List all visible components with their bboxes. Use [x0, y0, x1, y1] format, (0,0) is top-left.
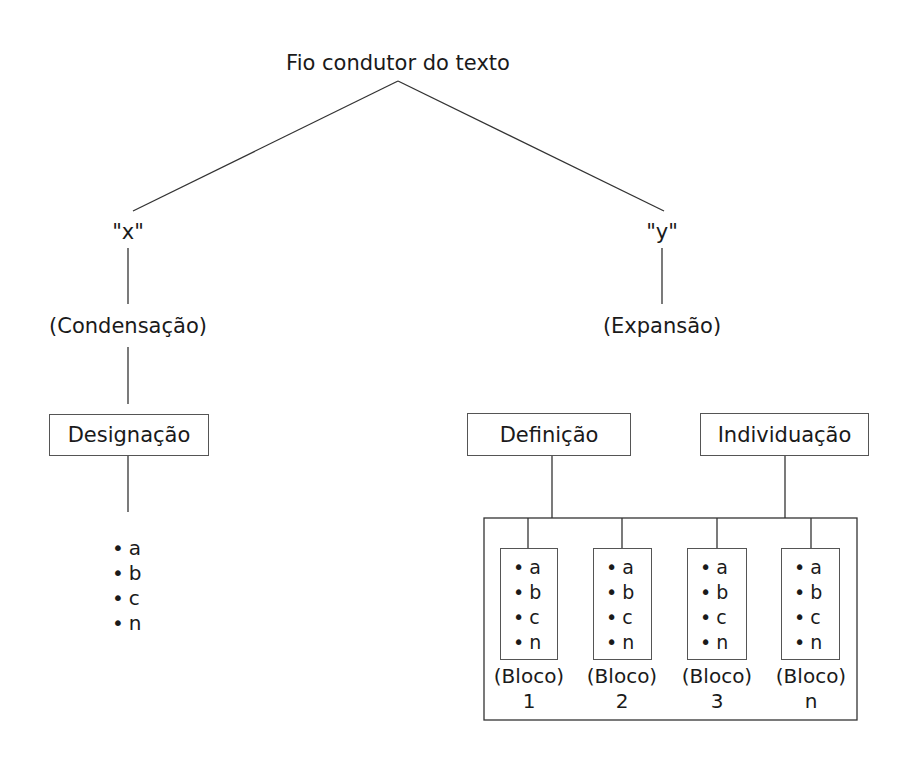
- block-2-caption: (Bloco) 2: [587, 664, 657, 714]
- individuation-box: Individuação: [700, 413, 869, 456]
- caption-text: (Bloco): [776, 664, 846, 689]
- caption-text: (Bloco): [682, 664, 752, 689]
- list-item: a: [112, 536, 142, 561]
- list-item: c: [112, 586, 142, 611]
- caption-text: (Bloco): [587, 664, 657, 689]
- list-item: n: [700, 630, 746, 655]
- block-1: a b c n: [500, 548, 558, 660]
- block-1-caption: (Bloco) 1: [494, 664, 564, 714]
- list-item: n: [794, 630, 839, 655]
- individuation-label: Individuação: [718, 423, 852, 447]
- x-label: "x": [112, 222, 144, 243]
- caption-number: n: [776, 689, 846, 714]
- condensation-label: (Condensação): [49, 316, 207, 337]
- caption-number: 1: [494, 689, 564, 714]
- list-item: b: [794, 580, 839, 605]
- list-item: n: [112, 611, 142, 636]
- list-item: a: [513, 555, 557, 580]
- designation-box: Designação: [49, 414, 209, 456]
- block-n: a b c n: [781, 548, 840, 660]
- list-item: c: [606, 605, 651, 630]
- list-item: c: [700, 605, 746, 630]
- list-item: n: [513, 630, 557, 655]
- y-label: "y": [646, 222, 678, 243]
- list-item: n: [606, 630, 651, 655]
- block-3: a b c n: [687, 548, 747, 660]
- block-n-caption: (Bloco) n: [776, 664, 846, 714]
- caption-number: 2: [587, 689, 657, 714]
- list-item: b: [112, 561, 142, 586]
- list-item: a: [700, 555, 746, 580]
- list-item: c: [513, 605, 557, 630]
- expansion-label: (Expansão): [603, 316, 721, 337]
- designation-list: a b c n: [112, 536, 142, 636]
- list-item: a: [606, 555, 651, 580]
- caption-text: (Bloco): [494, 664, 564, 689]
- list-item: c: [794, 605, 839, 630]
- block-3-caption: (Bloco) 3: [682, 664, 752, 714]
- designation-label: Designação: [68, 423, 191, 447]
- definition-box: Definição: [467, 413, 631, 456]
- list-item: b: [700, 580, 746, 605]
- list-item: b: [513, 580, 557, 605]
- block-2: a b c n: [593, 548, 652, 660]
- connector-lines: [0, 0, 915, 762]
- list-item: a: [794, 555, 839, 580]
- list-item: b: [606, 580, 651, 605]
- definition-label: Definição: [500, 423, 599, 447]
- diagram-title: Fio condutor do texto: [286, 53, 510, 74]
- caption-number: 3: [682, 689, 752, 714]
